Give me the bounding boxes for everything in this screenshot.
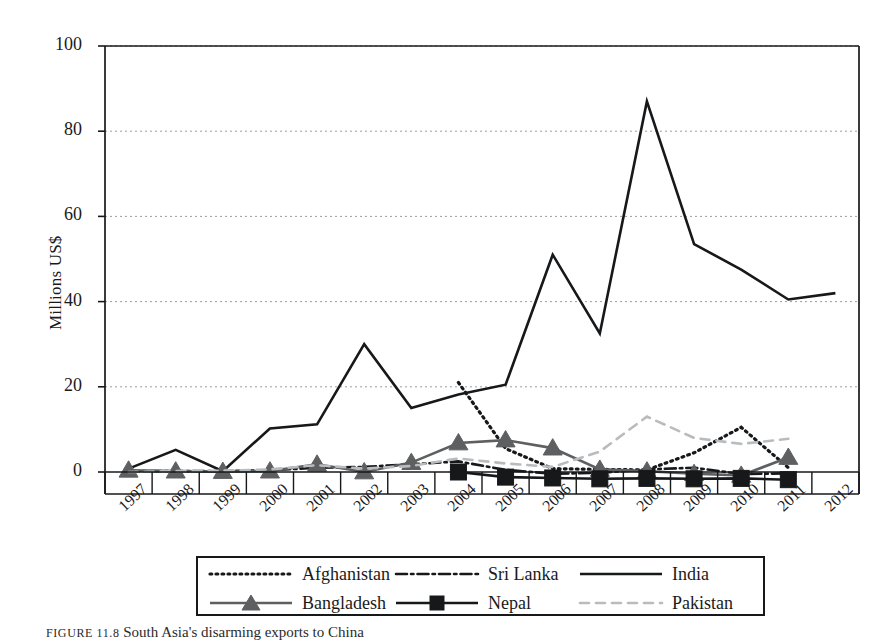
legend-swatch-india-icon: [578, 565, 664, 583]
legend-label: Pakistan: [664, 593, 733, 614]
legend-item-sri-lanka: Sri Lanka: [394, 564, 558, 585]
legend-label: Sri Lanka: [480, 564, 558, 585]
figure-caption: FIGURE 11.8 South Asia's disarming expor…: [46, 624, 364, 640]
plot-area: [0, 0, 891, 640]
legend-swatch-afghanistan-icon: [208, 565, 294, 583]
legend-swatch-sri-lanka-icon: [394, 565, 480, 583]
legend-item-bangladesh: Bangladesh: [208, 593, 386, 614]
series-afghanistan: [458, 383, 788, 470]
legend-label: Nepal: [480, 593, 531, 614]
axis-frame: [105, 46, 859, 494]
legend-item-pakistan: Pakistan: [578, 593, 733, 614]
legend-row: BangladeshNepalPakistan: [198, 588, 763, 618]
legend-label: Bangladesh: [294, 593, 386, 614]
legend-box: AfghanistanSri LankaIndiaBangladeshNepal…: [196, 556, 765, 616]
legend-row: AfghanistanSri LankaIndia: [198, 559, 763, 589]
legend-swatch-pakistan-icon: [578, 594, 664, 612]
legend-swatch-nepal-icon: [394, 594, 480, 612]
legend-item-india: India: [578, 564, 709, 585]
figure-panel: Millions US$ 020406080100 19971998199920…: [0, 0, 891, 640]
caption-figure-number: FIGURE 11.8: [46, 626, 120, 640]
legend-swatch-bangladesh-icon: [208, 594, 294, 612]
legend-label: Afghanistan: [294, 564, 390, 585]
series-layer: [119, 101, 835, 487]
legend-label: India: [664, 564, 709, 585]
y-tick-marks: [98, 46, 105, 472]
gridlines: [105, 46, 859, 387]
legend-item-nepal: Nepal: [394, 593, 531, 614]
legend-item-afghanistan: Afghanistan: [208, 564, 390, 585]
caption-text: South Asia's disarming exports to China: [123, 624, 364, 640]
